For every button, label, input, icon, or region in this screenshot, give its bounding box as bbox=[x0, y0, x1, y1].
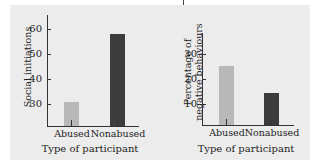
left-tick-50 bbox=[47, 54, 51, 55]
right-tick-30 bbox=[202, 54, 206, 55]
left-bar-nonabused-marker bbox=[117, 120, 118, 126]
right-tick-label-10: 10 bbox=[177, 99, 197, 109]
left-x-axis bbox=[47, 126, 139, 127]
right-tick-10 bbox=[202, 104, 206, 105]
left-tick-label-50: 50 bbox=[22, 49, 42, 59]
left-category-nonabused: Nonabused bbox=[88, 129, 148, 139]
left-bar-nonabused bbox=[110, 34, 125, 126]
left-tick-label-40: 40 bbox=[22, 74, 42, 84]
right-y-axis-title-line2: negative behaviours bbox=[193, 17, 205, 127]
right-x-axis bbox=[202, 125, 294, 126]
left-tick-30 bbox=[47, 104, 51, 105]
right-x-axis-title: Type of participant bbox=[176, 143, 313, 154]
right-tick-label-30: 30 bbox=[177, 49, 197, 59]
right-category-nonabused: Nonabused bbox=[242, 128, 302, 138]
left-bar-abused-marker bbox=[71, 120, 72, 126]
right-bar-abused bbox=[219, 66, 234, 125]
left-x-axis-title: Type of participant bbox=[20, 143, 160, 154]
left-tick-label-30: 30 bbox=[22, 99, 42, 109]
right-tick-label-20: 20 bbox=[177, 74, 197, 84]
left-tick-40 bbox=[47, 79, 51, 80]
left-y-axis bbox=[47, 15, 48, 127]
right-tick-20 bbox=[202, 79, 206, 80]
right-bar-nonabused-marker bbox=[271, 119, 272, 125]
right-bar-abused-marker bbox=[226, 119, 227, 125]
left-tick-label-60: 60 bbox=[22, 24, 42, 34]
left-tick-60 bbox=[47, 29, 51, 30]
